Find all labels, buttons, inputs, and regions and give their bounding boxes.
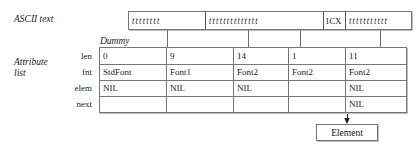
row-label-next: next <box>58 100 92 109</box>
node-4-fnt: Font2 <box>289 64 345 80</box>
element-box: Element <box>316 124 378 141</box>
ascii-segment-4: ttttttttttt <box>345 12 411 29</box>
dummy-node-len: 0 <box>100 48 168 64</box>
ascii-segment-3: 1CX <box>323 12 345 29</box>
node-2-elem: NIL <box>167 80 235 96</box>
node-4-len: 1 <box>289 48 345 64</box>
dummy-caption: Dummy <box>100 36 130 46</box>
ascii-segment-3-text: 1CX <box>324 16 341 26</box>
ascii-segment-2-text: tttttttttttttt <box>206 15 259 27</box>
row-label-fnt: fnt <box>58 68 92 77</box>
node-4-next <box>289 96 345 112</box>
node-2-fnt: Font1 <box>167 64 235 80</box>
node-5-next: NIL <box>346 96 406 112</box>
attribute-list-diagram: ASCII text Attribute list Dummy len fnt … <box>0 0 416 146</box>
element-box-label: Element <box>331 128 363 138</box>
ascii-text-bar: tttttttt tttttttttttttt 1CX ttttttttttt <box>128 11 412 30</box>
node-2-len: 9 <box>167 48 235 64</box>
node-2: 9 Font1 NIL <box>166 47 236 113</box>
ascii-segment-2: tttttttttttttt <box>205 12 323 29</box>
node-4-elem <box>289 80 345 96</box>
dummy-node-fnt: StdFont <box>100 64 168 80</box>
node-5-fnt: Font2 <box>346 64 406 80</box>
ascii-segment-1: tttttttt <box>129 12 205 29</box>
ascii-segment-4-text: ttttttttttt <box>346 15 388 27</box>
row-label-elem: elem <box>58 84 92 93</box>
row-label-len: len <box>58 52 92 61</box>
attribute-list-label-line2: list <box>14 68 26 79</box>
node-5-elem: NIL <box>346 80 406 96</box>
ascii-segment-1-text: tttttttt <box>129 15 161 27</box>
node-5: 11 Font2 NIL NIL <box>345 47 407 113</box>
ascii-text-label: ASCII text <box>14 14 53 25</box>
node-5-len: 11 <box>346 48 406 64</box>
dummy-node-next <box>100 96 168 112</box>
dummy-node: 0 StdFont NIL <box>99 47 169 113</box>
node-4: 1 Font2 <box>288 47 346 113</box>
dummy-node-elem: NIL <box>100 80 168 96</box>
attribute-list-label-line1: Attribute <box>14 57 48 68</box>
node-2-next <box>167 96 235 112</box>
